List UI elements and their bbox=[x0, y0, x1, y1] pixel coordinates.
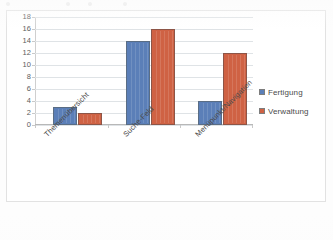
x-axis-tick-mark bbox=[252, 125, 253, 128]
y-axis-tick-mark bbox=[32, 101, 35, 102]
y-axis-line bbox=[35, 17, 36, 125]
y-axis-tick-label: 6 bbox=[27, 85, 31, 93]
y-axis-tick-label: 0 bbox=[27, 121, 31, 129]
y-axis-tick-mark bbox=[32, 113, 35, 114]
scan-speck bbox=[6, 2, 10, 6]
legend-item-fertigung[interactable]: Fertigung bbox=[259, 85, 325, 99]
legend-swatch-verwaltung-icon bbox=[259, 108, 265, 114]
legend-label-verwaltung: Verwaltung bbox=[268, 107, 309, 116]
legend-item-verwaltung[interactable]: Verwaltung bbox=[259, 104, 325, 118]
chart-legend: Fertigung Verwaltung bbox=[259, 85, 325, 123]
scan-speck bbox=[66, 2, 70, 6]
legend-label-fertigung: Fertigung bbox=[268, 88, 303, 97]
y-axis-tick-mark bbox=[32, 77, 35, 78]
y-axis-tick-label: 16 bbox=[22, 25, 31, 33]
scanned-page-background: 024681012141618 ThemenübersichtSuche-Fel… bbox=[0, 0, 333, 214]
y-axis-tick-label: 2 bbox=[27, 109, 31, 117]
bar-verwaltung-0[interactable] bbox=[78, 113, 102, 125]
y-axis-tick-label: 18 bbox=[22, 13, 31, 21]
y-axis-tick-label: 12 bbox=[22, 49, 31, 57]
y-axis-tick-mark bbox=[32, 65, 35, 66]
scan-speck bbox=[123, 2, 127, 6]
y-axis-tick-mark bbox=[32, 53, 35, 54]
y-axis-tick-label: 8 bbox=[27, 73, 31, 81]
x-axis-tick-mark bbox=[35, 125, 36, 128]
y-axis-tick-label: 4 bbox=[27, 97, 31, 105]
scan-top-artifact-strip bbox=[0, 0, 333, 9]
y-axis-tick-mark bbox=[32, 41, 35, 42]
y-axis-tick-label: 10 bbox=[22, 61, 31, 69]
x-axis-tick-mark bbox=[180, 125, 181, 128]
scan-speck bbox=[88, 2, 92, 6]
y-axis-tick-mark bbox=[32, 17, 35, 18]
chart-container: 024681012141618 ThemenübersichtSuche-Fel… bbox=[6, 10, 326, 202]
y-axis-tick-mark bbox=[32, 29, 35, 30]
gridline bbox=[35, 125, 253, 126]
y-axis-tick-label: 14 bbox=[22, 37, 31, 45]
x-axis-tick-mark bbox=[108, 125, 109, 128]
y-axis-tick-mark bbox=[32, 89, 35, 90]
legend-swatch-fertigung-icon bbox=[259, 89, 265, 95]
